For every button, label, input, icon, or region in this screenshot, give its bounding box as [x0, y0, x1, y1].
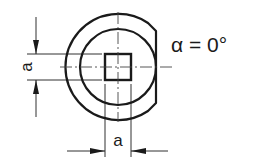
arrow-left-icon: [131, 148, 146, 154]
dimension-label-vertical: a: [17, 62, 36, 72]
technical-drawing: a a α = 0°: [0, 0, 258, 159]
arrow-up-icon: [33, 80, 39, 94]
dimension-label-horizontal: a: [113, 131, 123, 150]
arrow-down-icon: [33, 40, 39, 54]
angle-label: α = 0°: [171, 33, 227, 56]
arrow-right-icon: [90, 148, 105, 154]
